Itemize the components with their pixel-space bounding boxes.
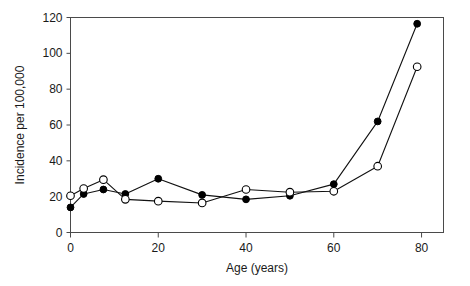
data-point-filled	[67, 204, 74, 211]
data-point-filled	[100, 186, 107, 193]
data-point-open	[100, 176, 108, 184]
x-tick-label: 60	[327, 241, 341, 255]
data-point-open	[198, 199, 206, 207]
x-tick-label: 40	[239, 241, 253, 255]
data-point-open	[330, 187, 338, 195]
data-point-filled	[330, 181, 337, 188]
data-point-filled	[155, 175, 162, 182]
y-tick-label: 120	[42, 11, 62, 25]
data-point-open	[67, 192, 75, 200]
data-point-filled	[243, 196, 250, 203]
data-point-open	[413, 63, 421, 71]
x-axis-title: Age (years)	[226, 261, 288, 275]
data-point-filled	[199, 191, 206, 198]
x-tick-label: 0	[67, 241, 74, 255]
data-point-open	[374, 162, 382, 170]
y-tick-label: 80	[49, 82, 63, 96]
data-point-open	[122, 196, 130, 204]
y-tick-label: 40	[49, 154, 63, 168]
data-point-open	[154, 197, 162, 205]
y-tick-label: 20	[49, 190, 63, 204]
data-point-open	[286, 188, 294, 196]
x-tick-label: 20	[152, 241, 166, 255]
data-point-open	[242, 186, 250, 194]
data-point-filled	[414, 20, 421, 27]
y-tick-label: 100	[42, 46, 62, 60]
data-point-open	[80, 185, 88, 193]
y-axis-title: Incidence per 100,000	[13, 65, 27, 184]
chart-figure: 020406080100120 020406080 Age (years) In…	[0, 0, 470, 286]
incidence-by-age-line-chart: 020406080100120 020406080 Age (years) In…	[0, 0, 470, 286]
x-tick-label: 80	[415, 241, 429, 255]
y-tick-label: 60	[49, 118, 63, 132]
data-point-filled	[374, 118, 381, 125]
y-tick-label: 0	[56, 226, 63, 240]
